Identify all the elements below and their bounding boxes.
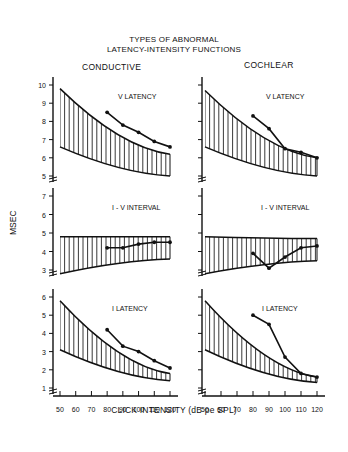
x-tick-label: 50 [201, 406, 209, 413]
data-point [299, 150, 303, 154]
data-point [121, 123, 125, 127]
data-point [152, 140, 156, 144]
x-tick-label: 100 [133, 406, 145, 413]
x-tick-label: 70 [88, 406, 96, 413]
x-tick-label: 80 [249, 406, 257, 413]
panel-conductive-v: 1098765V LATENCY [38, 75, 172, 186]
patient-series-line [107, 112, 170, 147]
data-point [315, 244, 319, 248]
data-point [105, 328, 109, 332]
data-point [299, 372, 303, 376]
y-tick-label: 3 [42, 349, 46, 356]
y-tick-label: 5 [42, 173, 46, 180]
data-point [299, 246, 303, 250]
y-tick-label: 5 [42, 312, 46, 319]
panel-label: I - V INTERVAL [261, 204, 309, 211]
data-point [251, 313, 255, 317]
y-tick-label: 4 [42, 249, 46, 256]
y-tick-label: 1 [42, 385, 46, 392]
x-tick-label: 90 [265, 406, 273, 413]
data-point [105, 110, 109, 114]
data-point [137, 350, 141, 354]
data-point [105, 246, 109, 250]
y-tick-label: 2 [42, 367, 46, 374]
panel-label: I LATENCY [112, 305, 148, 312]
x-tick-label: 70 [233, 406, 241, 413]
x-tick-label: 110 [149, 406, 160, 413]
x-tick-label: 120 [311, 406, 323, 413]
y-tick-label: 9 [42, 100, 46, 107]
data-point [137, 130, 141, 134]
chart-plot-area: 1098765V LATENCY76543I - V INTERVAL65432… [0, 0, 348, 452]
panel-cochlear-i: I LATENCY5060708090100110120 [198, 287, 325, 413]
x-tick-label: 60 [217, 406, 225, 413]
x-tick-label: 110 [295, 406, 306, 413]
y-tick-label: 3 [42, 267, 46, 274]
patient-series-line [253, 315, 317, 377]
y-tick-label: 8 [42, 118, 46, 125]
data-point [168, 240, 172, 244]
data-point [168, 145, 172, 149]
panel-conductive-iv: 76543I - V INTERVAL [42, 186, 172, 280]
panel-label: V LATENCY [266, 93, 305, 100]
x-tick-label: 100 [279, 406, 291, 413]
y-tick-label: 6 [42, 212, 46, 219]
y-tick-label: 5 [42, 230, 46, 237]
data-point [267, 266, 271, 270]
data-point [251, 114, 255, 118]
x-tick-label: 90 [119, 406, 127, 413]
data-point [152, 240, 156, 244]
x-tick-label: 60 [72, 406, 80, 413]
data-point [267, 322, 271, 326]
x-tick-label: 120 [164, 406, 176, 413]
panel-label: I - V INTERVAL [112, 204, 160, 211]
data-point [267, 127, 271, 131]
data-point [121, 246, 125, 250]
panel-cochlear-iv: I - V INTERVAL [198, 186, 319, 280]
data-point [152, 359, 156, 363]
panel-label: V LATENCY [118, 93, 157, 100]
y-tick-label: 10 [38, 82, 46, 89]
data-point [283, 355, 287, 359]
data-point [168, 366, 172, 370]
y-tick-label: 7 [42, 137, 46, 144]
data-point [283, 255, 287, 259]
patient-series-line [107, 330, 170, 368]
data-point [315, 156, 319, 160]
y-tick-label: 7 [42, 193, 46, 200]
x-tick-label: 80 [103, 406, 111, 413]
panel-conductive-i: 654321I LATENCY5060708090100110120 [42, 287, 178, 413]
data-point [251, 251, 255, 255]
y-tick-label: 4 [42, 330, 46, 337]
panel-cochlear-v: V LATENCY [198, 75, 319, 186]
y-tick-label: 6 [42, 294, 46, 301]
x-tick-label: 50 [56, 406, 64, 413]
data-point [315, 375, 319, 379]
y-tick-label: 6 [42, 155, 46, 162]
data-point [283, 147, 287, 151]
data-point [121, 344, 125, 348]
panel-label: I LATENCY [262, 305, 298, 312]
data-point [137, 242, 141, 246]
